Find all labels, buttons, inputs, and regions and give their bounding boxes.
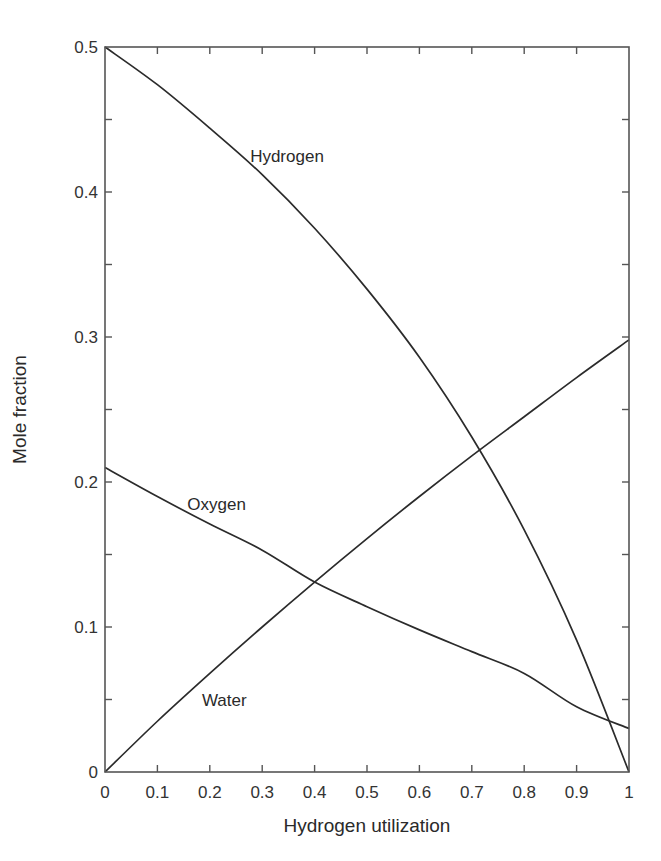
y-tick-label: 0.5 [74, 38, 98, 57]
x-tick-label: 0.8 [512, 783, 536, 802]
series-labels: HydrogenOxygenWater [187, 147, 324, 710]
series-line-water [105, 340, 629, 772]
y-tick-label: 0.2 [74, 473, 98, 492]
x-tick-label: 0.1 [146, 783, 170, 802]
x-tick-label: 0.7 [460, 783, 484, 802]
series-label-water: Water [202, 691, 247, 710]
series-label-oxygen: Oxygen [187, 495, 246, 514]
y-tick-label: 0.4 [74, 183, 98, 202]
series-line-oxygen [105, 468, 629, 729]
series-label-hydrogen: Hydrogen [250, 147, 324, 166]
y-axis-label: Mole fraction [9, 355, 30, 464]
x-tick-label: 0.4 [303, 783, 327, 802]
y-tick-label: 0.1 [74, 618, 98, 637]
series-lines [105, 47, 629, 772]
y-tick-label: 0 [89, 763, 98, 782]
plot-frame [105, 47, 629, 772]
series-line-hydrogen [105, 47, 629, 772]
line-chart: 00.10.20.30.40.50.60.70.80.9100.10.20.30… [0, 0, 661, 861]
x-tick-label: 0.3 [250, 783, 274, 802]
x-tick-label: 0.9 [565, 783, 589, 802]
chart-figure: 00.10.20.30.40.50.60.70.80.9100.10.20.30… [0, 0, 661, 861]
x-axis-label: Hydrogen utilization [284, 815, 451, 836]
x-tick-label: 1 [624, 783, 633, 802]
x-tick-label: 0.5 [355, 783, 379, 802]
x-tick-label: 0 [100, 783, 109, 802]
x-tick-label: 0.2 [198, 783, 222, 802]
y-tick-label: 0.3 [74, 328, 98, 347]
tick-labels: 00.10.20.30.40.50.60.70.80.9100.10.20.30… [74, 38, 633, 802]
axis-ticks [105, 47, 629, 772]
x-tick-label: 0.6 [408, 783, 432, 802]
